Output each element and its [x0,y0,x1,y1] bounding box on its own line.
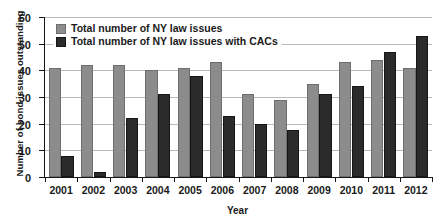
bar [49,68,61,177]
x-axis-tick [368,177,369,182]
x-axis-tick [303,177,304,182]
x-axis-tick [432,177,433,182]
x-axis-tick [142,177,143,182]
x-axis-tick [335,177,336,182]
gridline [45,17,432,18]
y-axis-tick: 20 [39,124,45,125]
x-axis-tick-label: 2005 [178,184,201,196]
legend-swatch-icon-series-1 [56,37,66,47]
plot-area: 0102030405060 20012002200320042005200620… [44,17,432,178]
x-axis-tick-label: 2010 [340,184,363,196]
x-axis-tick-label: 2009 [307,184,330,196]
legend-item-ny-law-issues-with-cacs: Total number of NY law issues with CACs [56,35,278,48]
bar [255,124,267,177]
legend-item-ny-law-issues: Total number of NY law issues [56,22,278,35]
legend-label-series-1: Total number of NY law issues with CACs [71,35,278,48]
x-axis-tick-label: 2012 [404,184,427,196]
bar [287,130,299,177]
y-axis-tick-label: 30 [19,92,31,104]
x-axis-tick [45,177,46,182]
y-axis-tick-label: 10 [19,145,31,157]
x-axis-tick-label: 2004 [146,184,169,196]
x-axis-tick [77,177,78,182]
x-axis-tick-label: 2007 [243,184,266,196]
bar [61,156,73,177]
bar [190,76,202,177]
y-axis-tick-label: 50 [19,39,31,51]
x-axis-tick-label: 2002 [82,184,105,196]
y-axis-tick: 50 [39,44,45,45]
legend-label-series-0: Total number of NY law issues [71,22,222,35]
bar [94,172,106,177]
x-axis-tick [110,177,111,182]
x-axis-tick-label: 2001 [49,184,72,196]
bar [242,94,254,177]
x-axis-tick-label: 2003 [114,184,137,196]
x-axis-tick-label: 2008 [275,184,298,196]
x-axis-tick [206,177,207,182]
y-axis-tick-label: 40 [19,65,31,77]
bar [339,62,351,177]
bar [384,52,396,177]
bar [126,118,138,177]
bar [274,100,286,177]
bar [81,65,93,177]
bar [223,116,235,177]
y-axis-tick: 60 [39,17,45,18]
legend-swatch-icon-series-0 [56,24,66,34]
bar [371,60,383,177]
x-axis-tick [271,177,272,182]
bar [178,68,190,177]
x-axis-title: Year [44,205,431,216]
bar [352,86,364,177]
y-axis-tick: 30 [39,97,45,98]
x-axis-tick-label: 2011 [372,184,395,196]
legend: Total number of NY law issues Total numb… [53,20,282,50]
x-axis-tick [174,177,175,182]
y-axis-tick-label: 0 [25,172,31,184]
bar [145,70,157,177]
x-axis-tick [239,177,240,182]
y-axis-tick: 10 [39,150,45,151]
bar [307,84,319,177]
bar [210,62,222,177]
x-axis-tick-label: 2006 [211,184,234,196]
y-axis-tick: 40 [39,70,45,71]
bar [403,68,415,177]
bar [158,94,170,177]
bar-chart-figure: Number of bond issues outstanding 010203… [0,0,439,224]
bar [113,65,125,177]
x-axis-tick [400,177,401,182]
y-axis-tick-label: 20 [19,119,31,131]
bar [416,36,428,177]
bar [319,94,331,177]
y-axis-tick-label: 60 [19,12,31,24]
